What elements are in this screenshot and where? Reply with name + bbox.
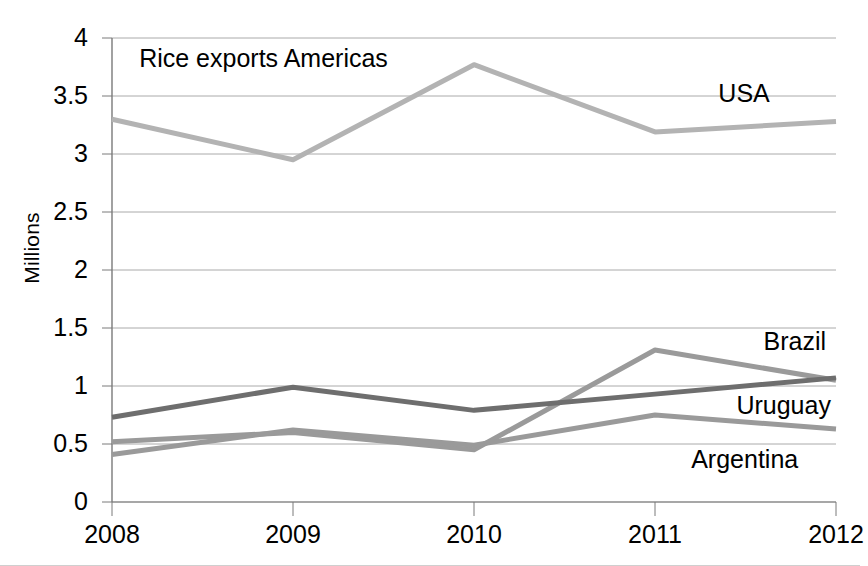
x-axis-tick-label: 2011 [595, 522, 715, 547]
x-axis-tick-label: 2009 [233, 522, 353, 547]
series-line-uruguay [112, 378, 836, 417]
y-axis-tick-label: 0.5 [12, 431, 88, 456]
x-axis-tick-label: 2008 [52, 522, 172, 547]
x-axis-tick-label: 2010 [414, 522, 534, 547]
chart-title: Rice exports Americas [139, 46, 388, 71]
series-label-usa: USA [718, 81, 769, 106]
y-axis-tick-labels: 00.511.522.533.54 [0, 0, 88, 566]
y-axis-tick-label: 1 [12, 373, 88, 398]
x-axis-tick-label: 2012 [776, 522, 868, 547]
series-label-brazil: Brazil [764, 329, 827, 354]
y-axis-tick-label: 3 [12, 141, 88, 166]
series-label-argentina: Argentina [691, 447, 798, 472]
y-axis-title: Millions [20, 168, 44, 328]
y-axis-tick-label: 0 [12, 489, 88, 514]
y-axis-tick-label: 3.5 [12, 83, 88, 108]
y-axis-tick-label: 4 [12, 25, 88, 50]
series-label-uruguay: Uruguay [736, 393, 831, 418]
